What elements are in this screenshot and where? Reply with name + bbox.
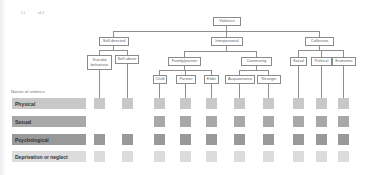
matrix-cell	[180, 151, 191, 162]
row-label-deprivation-or-neglect: Deprivation or neglect	[12, 151, 86, 162]
corner-mark: 2 1	[21, 11, 25, 15]
connector	[239, 84, 240, 98]
node-child: Child	[153, 75, 167, 84]
matrix-cell	[154, 134, 165, 145]
row-label-sexual: Sexual	[12, 116, 86, 127]
matrix-cell	[293, 116, 304, 127]
node-elder: Elder	[204, 75, 219, 84]
matrix-cell	[338, 116, 349, 127]
matrix-cell	[122, 151, 133, 162]
connector	[184, 51, 257, 52]
matrix-cell	[263, 98, 274, 109]
row-label-physical: Physical	[12, 98, 86, 109]
node-violence: Violence	[213, 17, 241, 26]
matrix-cell	[206, 134, 217, 145]
matrix-cell	[94, 151, 105, 162]
matrix-cell	[180, 116, 191, 127]
matrix-cell	[263, 116, 274, 127]
matrix-cell	[94, 98, 105, 109]
matrix-cell	[263, 134, 274, 145]
matrix-cell	[234, 151, 245, 162]
node-community: Community	[241, 57, 272, 66]
matrix-cell	[206, 98, 217, 109]
connector	[343, 66, 344, 98]
node-stranger: Stranger	[257, 75, 281, 84]
connector	[159, 84, 160, 98]
matrix-cell	[316, 151, 327, 162]
connector	[113, 31, 320, 32]
matrix-header: Nature of violence	[11, 89, 45, 94]
matrix-cell	[154, 151, 165, 162]
connector	[321, 50, 322, 57]
matrix-cell	[154, 98, 165, 109]
connector	[99, 70, 100, 98]
page-edge-shadow	[0, 0, 6, 175]
matrix-cell	[338, 151, 349, 162]
matrix-cell	[293, 151, 304, 162]
node-political: Political	[311, 57, 332, 66]
matrix-cell	[316, 134, 327, 145]
connector	[99, 50, 128, 51]
node-interpersonal: Interpersonal	[211, 37, 243, 46]
corner-mark: a4 4	[38, 11, 44, 15]
node-self-directed: Self-directed	[99, 37, 129, 46]
matrix-cell	[206, 116, 217, 127]
matrix-cell	[338, 134, 349, 145]
matrix-cell	[122, 134, 133, 145]
node-social: Social	[290, 57, 307, 66]
matrix-cell	[293, 98, 304, 109]
matrix-cell	[234, 134, 245, 145]
connector	[321, 66, 322, 98]
connector	[343, 50, 344, 57]
matrix-cell	[122, 98, 133, 109]
node-economic: Economic	[332, 57, 356, 66]
node-family-partner: Family/partner	[168, 57, 201, 66]
matrix-cell	[180, 134, 191, 145]
connector	[127, 64, 128, 98]
connector	[298, 50, 299, 57]
row-label-psychological: Psychological	[12, 134, 86, 145]
connector	[298, 66, 299, 98]
connector	[268, 84, 269, 98]
matrix-cell	[180, 98, 191, 109]
node-suicidal-behaviour: Suicidal behaviour	[87, 55, 112, 70]
matrix-cell	[206, 151, 217, 162]
connector	[211, 84, 212, 98]
connector	[239, 70, 269, 71]
node-self-abuse: Self-abuse	[115, 55, 139, 64]
matrix-cell	[234, 116, 245, 127]
connector	[185, 84, 186, 98]
node-partner: Partner	[176, 75, 196, 84]
matrix-cell	[316, 116, 327, 127]
matrix-cell	[263, 151, 274, 162]
matrix-cell	[234, 98, 245, 109]
matrix-cell	[154, 116, 165, 127]
matrix-cell	[316, 98, 327, 109]
node-acquaintance: Acquaintance	[225, 75, 255, 84]
matrix-cell	[338, 98, 349, 109]
matrix-cell	[293, 134, 304, 145]
matrix-cell	[94, 134, 105, 145]
node-collective: Collective	[305, 37, 334, 46]
